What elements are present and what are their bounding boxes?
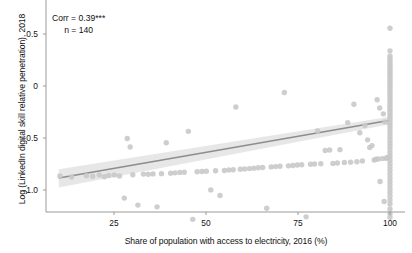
plot-canvas xyxy=(0,0,412,253)
data-point xyxy=(117,173,122,178)
data-point xyxy=(194,169,199,174)
data-point xyxy=(172,170,177,175)
data-point xyxy=(186,129,191,134)
data-point xyxy=(204,169,209,174)
y-axis-label: Log (LinkedIn digital skill relative pen… xyxy=(17,0,27,219)
data-point xyxy=(282,90,287,95)
data-point xyxy=(122,195,127,200)
data-point xyxy=(90,174,95,179)
y-axis-tick-label: 0 xyxy=(33,82,38,90)
data-point xyxy=(354,159,359,164)
data-point xyxy=(127,144,132,149)
data-point xyxy=(57,173,62,178)
data-point xyxy=(299,162,304,167)
data-point xyxy=(315,128,320,133)
data-point xyxy=(303,214,308,219)
data-point xyxy=(135,202,140,207)
x-axis-tick-label: 25 xyxy=(109,219,118,227)
data-point xyxy=(362,123,367,128)
scatter-plot-figure: 0.50−0.5−1.0 Log (LinkedIn digital skill… xyxy=(0,0,412,253)
x-axis-label: Share of population with access to elect… xyxy=(46,236,406,246)
data-point xyxy=(387,201,392,206)
data-point xyxy=(318,161,323,166)
data-point xyxy=(159,171,164,176)
data-points xyxy=(57,26,392,222)
data-point xyxy=(217,193,222,198)
x-axis-tick-label: 50 xyxy=(201,219,210,227)
data-point xyxy=(125,136,130,141)
data-point xyxy=(348,159,353,164)
data-point xyxy=(106,173,111,178)
data-point xyxy=(387,48,392,53)
data-point xyxy=(377,105,382,110)
data-point xyxy=(369,143,374,148)
correlation-annotation: Corr = 0.39*** xyxy=(52,13,105,25)
data-point xyxy=(164,140,169,145)
data-point xyxy=(357,130,362,135)
data-point xyxy=(150,171,155,176)
data-point xyxy=(327,147,332,152)
data-point xyxy=(377,179,382,184)
data-point xyxy=(342,160,347,165)
data-point xyxy=(351,102,356,107)
data-point xyxy=(264,206,269,211)
data-point xyxy=(233,104,238,109)
data-point xyxy=(130,172,135,177)
data-point xyxy=(381,199,386,204)
data-point xyxy=(190,217,195,222)
data-point xyxy=(387,206,392,211)
data-point xyxy=(337,147,342,152)
data-point xyxy=(382,119,387,124)
data-point xyxy=(154,204,159,209)
data-point xyxy=(69,174,74,179)
axis-ticks xyxy=(43,34,390,215)
data-point xyxy=(381,111,386,116)
data-point xyxy=(335,160,340,165)
y-axis-tick-label: 0.5 xyxy=(26,30,38,38)
data-point xyxy=(360,158,365,163)
data-point xyxy=(345,120,350,125)
data-point xyxy=(146,171,151,176)
data-point xyxy=(260,165,265,170)
data-point xyxy=(231,167,236,172)
plot-annotation: Corr = 0.39*** n = 140 xyxy=(52,13,105,36)
data-point xyxy=(312,161,317,166)
data-point xyxy=(277,164,282,169)
data-point xyxy=(112,172,117,177)
data-point xyxy=(208,187,213,192)
data-point xyxy=(141,171,146,176)
data-point xyxy=(387,26,392,31)
x-axis-tick-label: 100 xyxy=(383,219,397,227)
data-point xyxy=(374,97,379,102)
data-point xyxy=(182,170,187,175)
x-axis-tick-label: 75 xyxy=(293,219,302,227)
data-point xyxy=(97,172,102,177)
sample-size-annotation: n = 140 xyxy=(52,25,105,37)
data-point xyxy=(242,166,247,171)
data-point xyxy=(365,137,370,142)
data-point xyxy=(213,168,218,173)
data-point xyxy=(84,173,89,178)
